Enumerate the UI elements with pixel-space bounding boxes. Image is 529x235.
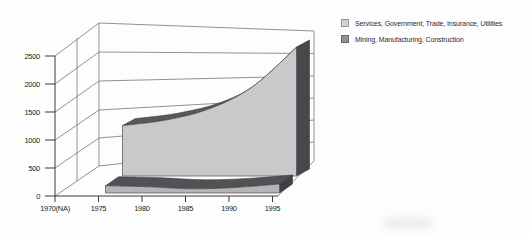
y-tick-label: 500 [28,164,40,173]
x-tick-label: 1975 [91,204,107,213]
back-wall-gridline [99,52,314,54]
y-tick-label: 1500 [25,108,41,117]
legend: Services, Government, Trade, Insurance, … [341,19,502,43]
legend-label-mining: Mining, Manufacturing, Construction [355,36,464,43]
legend-item-mining: Mining, Manufacturing, Construction [341,35,502,43]
x-tick-label: 1970(NA) [40,204,71,213]
services-swatch-icon [341,19,349,27]
x-tick-label: 1980 [134,204,150,213]
y-tick-label: 2000 [25,80,41,89]
back-wall-gridline [99,23,314,31]
scan-smudge-artifact [382,217,434,229]
x-tick-label: 1990 [221,204,237,213]
y-tick-label: 1000 [25,136,41,145]
series-0-front-face [123,47,297,176]
chart-screenshot: 050010001500200025001970(NA)197519801985… [0,0,529,235]
mining-swatch-icon [341,35,349,43]
legend-label-services: Services, Government, Trade, Insurance, … [355,20,502,27]
y-tick-label: 0 [36,192,40,201]
x-tick-label: 1995 [265,204,281,213]
x-tick-label: 1985 [178,204,194,213]
series-0-side-face [297,40,310,176]
legend-item-services: Services, Government, Trade, Insurance, … [341,19,502,27]
y-tick-label: 2500 [25,52,41,61]
